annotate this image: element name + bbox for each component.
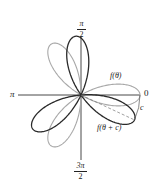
label-zero: 0	[144, 89, 149, 98]
top-num: π	[77, 20, 86, 28]
label-3pi-over-2: 3π 2	[74, 162, 87, 181]
bottom-den: 2	[74, 173, 87, 181]
bottom-num: 3π	[74, 162, 87, 170]
label-pi-over-2: π 2	[77, 20, 86, 39]
label-c: c	[140, 104, 144, 112]
label-f-theta-plus-c: f(θ + c)	[97, 124, 121, 132]
label-pi: π	[10, 90, 15, 99]
label-f-theta: f(θ)	[110, 72, 121, 80]
top-den: 2	[77, 31, 86, 39]
rotation-dashed-line	[81, 95, 134, 120]
